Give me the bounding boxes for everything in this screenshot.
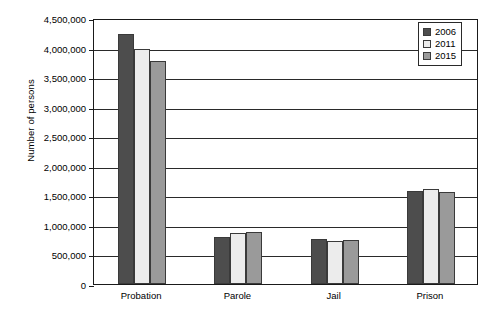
bar <box>246 232 262 284</box>
y-axis-tick-label: 4,500,000 <box>14 15 86 25</box>
bar <box>150 61 166 284</box>
y-axis-tick-label: 0 <box>14 281 86 291</box>
legend-label: 2015 <box>435 51 456 61</box>
bar-group <box>214 20 262 284</box>
y-axis-tick-label: 1,000,000 <box>14 222 86 232</box>
bar <box>118 34 134 284</box>
y-axis-tick-label: 500,000 <box>14 251 86 261</box>
bar <box>407 191 423 284</box>
legend-label: 2011 <box>435 39 455 49</box>
bar <box>214 237 230 284</box>
legend-item: 2011 <box>423 38 456 50</box>
bar <box>439 192 455 284</box>
bar-group <box>118 20 166 284</box>
legend-item: 2006 <box>423 26 456 38</box>
bar-chart: Number of persons 4,500,0004,000,0003,50… <box>0 0 503 320</box>
tick-mark <box>89 286 94 287</box>
y-axis-tick-label: 3,000,000 <box>14 104 86 114</box>
x-axis-tick-label: Probation <box>91 290 191 301</box>
y-axis-tick-label: 2,500,000 <box>14 133 86 143</box>
bar <box>134 49 150 284</box>
bar-group <box>311 20 359 284</box>
x-axis-tick-label: Parole <box>187 290 287 301</box>
x-axis-tick-label: Jail <box>284 290 384 301</box>
legend-swatch-icon <box>423 52 431 60</box>
bar <box>311 239 327 285</box>
bar <box>327 241 343 284</box>
y-axis-tick-label: 1,500,000 <box>14 192 86 202</box>
bar <box>423 189 439 284</box>
legend-item: 2015 <box>423 50 456 62</box>
y-axis-tick-label: 4,000,000 <box>14 45 86 55</box>
y-axis-tick-label: 3,500,000 <box>14 74 86 84</box>
legend-label: 2006 <box>435 27 456 37</box>
x-axis-tick-label: Prison <box>380 290 480 301</box>
legend-swatch-icon <box>423 28 431 36</box>
legend: 200620112015 <box>418 22 462 66</box>
bar <box>230 233 246 284</box>
bar <box>343 240 359 284</box>
y-axis-tick-label: 2,000,000 <box>14 163 86 173</box>
legend-swatch-icon <box>423 40 431 48</box>
